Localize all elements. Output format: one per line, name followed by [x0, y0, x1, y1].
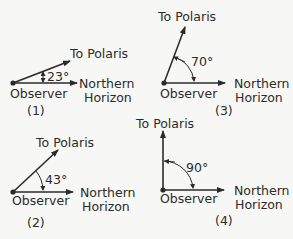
panel-3: To Polaris 70° Northern Horizon Observer… [157, 9, 290, 118]
angle-arc-head [165, 161, 175, 162]
horizon-label-line1: Northern [79, 76, 135, 91]
panel-number: (2) [27, 215, 45, 230]
panel-number: (4) [215, 213, 233, 228]
angle-label: 90° [186, 160, 208, 175]
angle-label: 23° [47, 69, 69, 84]
polaris-altitude-diagram: To Polaris 23° Northern Horizon Observer… [0, 0, 293, 239]
observer-dot [10, 80, 15, 85]
observer-dot [161, 80, 166, 85]
polaris-arrow [164, 27, 185, 83]
polaris-label: To Polaris [69, 46, 128, 61]
observer-label: Observer [160, 191, 218, 206]
horizon-label-line2: Horizon [84, 90, 132, 105]
panel-1: To Polaris 23° Northern Horizon Observer… [10, 46, 135, 118]
angle-arc [36, 171, 43, 190]
observer-label: Observer [12, 193, 70, 208]
angle-label: 70° [191, 54, 213, 69]
polaris-label: To Polaris [35, 135, 94, 150]
horizon-label-line1: Northern [80, 185, 136, 200]
polaris-label: To Polaris [135, 116, 194, 131]
panel-4: To Polaris 90° Northern Horizon Observer… [135, 116, 290, 228]
polaris-label: To Polaris [157, 9, 216, 24]
horizon-label-line2: Horizon [82, 199, 130, 214]
panel-number: (3) [215, 103, 233, 118]
panel-2: To Polaris 43° Northern Horizon Observer… [10, 135, 135, 230]
observer-label: Observer [10, 86, 68, 101]
angle-label: 43° [45, 172, 67, 187]
horizon-label-line1: Northern [234, 183, 290, 198]
observer-label: Observer [160, 86, 218, 101]
horizon-label-line2: Horizon [235, 90, 283, 105]
horizon-label-line1: Northern [234, 76, 290, 91]
panel-number: (1) [27, 103, 45, 118]
angle-arc-head [174, 57, 185, 62]
horizon-label-line2: Horizon [235, 197, 283, 212]
